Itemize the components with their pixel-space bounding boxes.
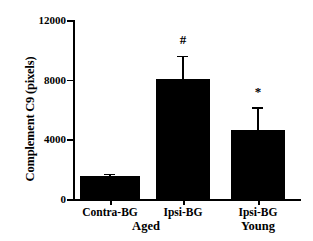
- x-axis-line: [73, 199, 301, 201]
- significance-marker-ipsi-bg-young: *: [238, 85, 278, 98]
- error-bar-line-ipsi-bg-aged: [182, 56, 183, 79]
- y-tick-label-8000: 8000: [6, 75, 66, 86]
- error-bar-cap-ipsi-bg-young: [252, 107, 263, 108]
- error-bar-cap-contra-bg: [104, 174, 115, 175]
- y-axis-title: Complement C9 (pixels): [21, 19, 39, 219]
- y-tick-12000: [67, 20, 73, 22]
- y-tick-label-4000: 4000: [6, 134, 66, 145]
- bar-ipsi-bg-aged: [156, 79, 210, 199]
- y-axis-line: [73, 20, 75, 200]
- group-label-young: Young: [198, 219, 313, 233]
- bar-contra-bg: [80, 176, 140, 199]
- bar-chart-figure: Complement C9 (pixels) 0 4000 8000 12000…: [0, 0, 313, 241]
- group-label-aged: Aged: [86, 219, 206, 233]
- x-tick-ipsi-bg-aged: [183, 200, 185, 205]
- error-bar-cap-ipsi-bg-aged: [177, 56, 188, 57]
- y-tick-8000: [67, 80, 73, 82]
- y-tick-4000: [67, 139, 73, 141]
- y-tick-label-0: 0: [6, 194, 66, 205]
- x-label-ipsi-bg-young: Ipsi-BG: [208, 206, 308, 219]
- x-tick-contra-bg: [110, 200, 112, 205]
- x-tick-ipsi-bg-young: [258, 200, 260, 205]
- y-tick-0: [67, 199, 73, 201]
- y-tick-label-12000: 12000: [6, 15, 66, 26]
- error-bar-line-ipsi-bg-young: [257, 107, 258, 130]
- significance-marker-ipsi-bg-aged: #: [163, 33, 203, 46]
- bar-ipsi-bg-young: [231, 130, 285, 199]
